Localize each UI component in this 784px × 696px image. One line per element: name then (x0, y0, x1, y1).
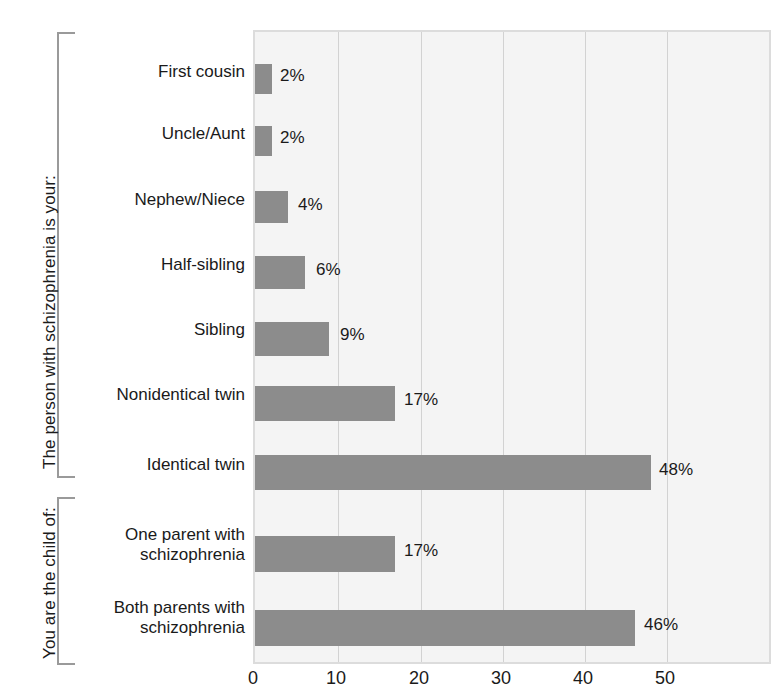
category-label-identical-twin: Identical twin (45, 455, 245, 475)
value-label-sibling: 9% (340, 325, 365, 345)
gridline-40 (585, 32, 586, 662)
value-label-one-parent: 17% (404, 541, 438, 561)
category-label-one-parent: One parent with schizophrenia (45, 525, 245, 565)
value-label-half-sibling: 6% (316, 260, 341, 280)
category-label-uncle-aunt: Uncle/Aunt (45, 124, 245, 144)
bar-sibling (255, 322, 329, 356)
value-label-identical-twin: 48% (659, 460, 693, 480)
bar-one-parent (255, 536, 395, 572)
bar-first-cousin (255, 64, 272, 94)
xtick-40: 40 (563, 668, 603, 689)
category-label-nephew-niece: Nephew/Niece (45, 190, 245, 210)
category-label-sibling: Sibling (45, 320, 245, 340)
bar-both-parents (255, 610, 635, 646)
bar-uncle-aunt (255, 126, 272, 156)
bar-nonidentical-twin (255, 386, 395, 421)
value-label-uncle-aunt: 2% (280, 128, 305, 148)
category-label-first-cousin: First cousin (45, 62, 245, 82)
value-label-first-cousin: 2% (280, 66, 305, 86)
xtick-20: 20 (399, 668, 439, 689)
value-label-nonidentical-twin: 17% (404, 390, 438, 410)
xtick-30: 30 (481, 668, 521, 689)
gridline-50 (667, 32, 668, 662)
xtick-0: 0 (233, 668, 273, 689)
plot-area (253, 30, 771, 664)
gridline-20 (421, 32, 422, 662)
category-label-half-sibling: Half-sibling (45, 255, 245, 275)
category-label-both-parents: Both parents with schizophrenia (45, 598, 245, 638)
value-label-both-parents: 46% (644, 615, 678, 635)
bar-identical-twin (255, 455, 651, 490)
bar-chart: The person with schizophrenia is your: Y… (0, 0, 784, 696)
xtick-10: 10 (316, 668, 356, 689)
bar-nephew-niece (255, 191, 288, 223)
xtick-50: 50 (645, 668, 685, 689)
category-label-nonidentical-twin: Nonidentical twin (45, 385, 245, 405)
value-label-nephew-niece: 4% (298, 195, 323, 215)
gridline-30 (503, 32, 504, 662)
bar-half-sibling (255, 256, 305, 289)
